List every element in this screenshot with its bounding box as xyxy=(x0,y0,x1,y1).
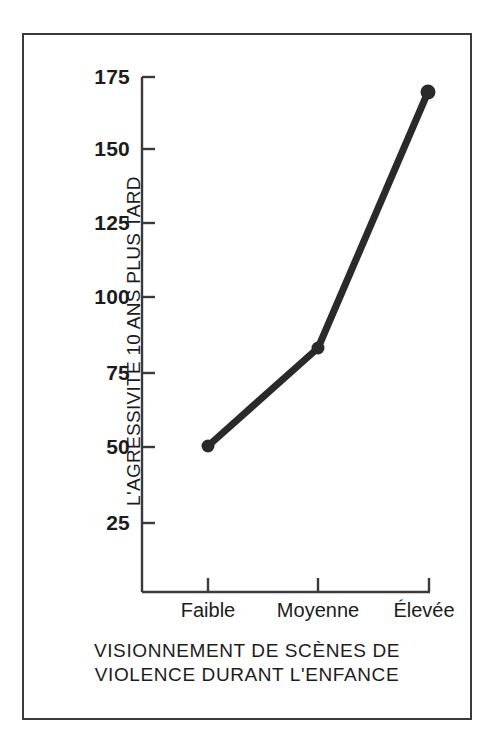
y-tick-label-25: 25 xyxy=(70,512,130,533)
y-tick-label-75: 75 xyxy=(70,362,130,383)
x-axis-ticks xyxy=(208,578,429,592)
data-point-elevee xyxy=(421,85,436,100)
x-tick-label-elevee: Élevée xyxy=(393,600,454,620)
data-point-moyenne xyxy=(312,342,325,355)
x-tick-label-moyenne: Moyenne xyxy=(277,600,359,620)
y-tick-label-175: 175 xyxy=(70,66,130,87)
y-tick-label-125: 125 xyxy=(70,212,130,233)
x-tick-label-faible: Faible xyxy=(181,600,235,620)
x-axis-title-line-2: VIOLENCE DURANT L'ENFANCE xyxy=(22,663,472,687)
x-axis-title-line-1: VISIONNEMENT DE SCÈNES DE xyxy=(22,639,472,663)
y-tick-label-100: 100 xyxy=(70,286,130,307)
data-line-series-1 xyxy=(208,92,428,446)
y-tick-label-150: 150 xyxy=(70,138,130,159)
data-point-faible xyxy=(202,440,215,453)
y-tick-label-50: 50 xyxy=(70,436,130,457)
data-point-markers xyxy=(202,85,436,453)
y-axis-title: L'AGRESSIVITÉ 10 ANS PLUS TARD xyxy=(123,131,145,551)
y-axis-tick-labels: 175 150 125 100 75 50 25 xyxy=(68,0,130,733)
x-axis-title: VISIONNEMENT DE SCÈNES DE VIOLENCE DURAN… xyxy=(22,639,472,688)
